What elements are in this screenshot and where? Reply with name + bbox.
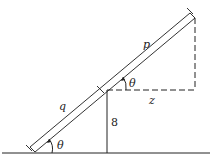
q-label: q — [59, 100, 66, 113]
theta-top-label: θ — [129, 77, 136, 90]
height-label: 8 — [111, 116, 118, 129]
plank-upper-edge — [30, 13, 190, 147]
z-label: z — [148, 94, 155, 107]
plank — [30, 13, 195, 152]
ladder-diagram: θ θ p q z 8 — [0, 0, 221, 160]
plank-lower-edge — [35, 18, 195, 152]
theta-bottom-label: θ — [57, 139, 64, 152]
p-label: p — [143, 38, 150, 51]
